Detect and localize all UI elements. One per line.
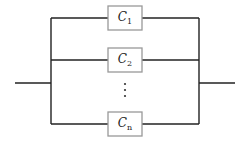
- ellipsis-dot: [124, 95, 126, 97]
- component-label-2: C2: [108, 52, 142, 71]
- component-label-1: C1: [108, 10, 142, 29]
- ellipsis-dot: [124, 83, 126, 85]
- component-label-n: Cn: [108, 116, 142, 135]
- ellipsis-dot: [124, 89, 126, 91]
